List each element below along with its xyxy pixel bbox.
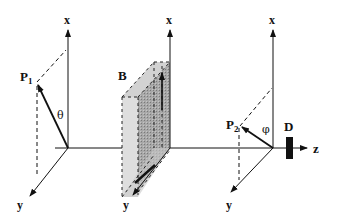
- z-axis-label: z: [313, 141, 319, 156]
- y-axis-1: [30, 148, 68, 196]
- p1-projection-x: [37, 50, 66, 82]
- y-axis-2-label: y: [123, 198, 129, 212]
- detector-label: D: [284, 119, 293, 134]
- x-axis-1-label: x: [64, 13, 70, 27]
- z-axis: z: [55, 141, 319, 156]
- p2-projection-x: [240, 88, 272, 126]
- p2-label: P2: [226, 117, 239, 134]
- y-axis-3-label: y: [226, 198, 232, 212]
- theta-angle-label: θ: [57, 109, 64, 122]
- phi-angle-label: φ: [262, 123, 270, 136]
- x-axis-3-label: x: [269, 13, 275, 27]
- frame-1: x y P1 θ: [17, 13, 70, 212]
- diagram-canvas: z x y P1 θ: [0, 0, 337, 217]
- p1-label: P1: [20, 69, 33, 86]
- box-b-label: B: [118, 68, 127, 83]
- frame-3: x y P2 φ D: [226, 13, 293, 212]
- y-axis-3: [231, 148, 273, 192]
- x-axis-2-label: x: [166, 13, 172, 27]
- y-axis-1-label: y: [17, 198, 23, 212]
- detector-d: [286, 137, 293, 159]
